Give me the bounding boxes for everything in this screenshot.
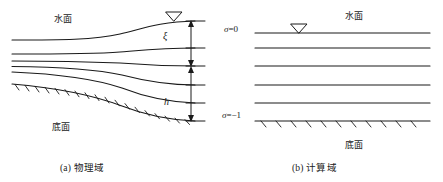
h-dimension-arrow [188,66,194,122]
computational-bed-hatching [261,121,416,127]
sigma-bottom-label: σ=−1 [222,110,241,120]
water-level-triangle-icon-a [166,12,182,21]
caption-panel-b: (b) 计算域 [292,160,337,174]
physical-water-surface-line [12,21,195,40]
water-surface-label-b: 水面 [345,9,363,22]
sigma-bottom-value: =−1 [226,110,241,120]
sigma-top-value: =0 [228,24,238,34]
physical-layer-line-2 [12,48,195,54]
bottom-label-a: 底面 [52,120,70,133]
caption-panel-a: (a) 物理域 [60,160,104,174]
h-symbol-label: h [164,96,169,107]
bottom-label-b: 底面 [345,138,363,151]
sigma-coordinate-figure: 水面 底面 ξ h σ=0 σ=−1 水面 底面 (a) 物理域 (b) 计算域 [0,0,443,182]
physical-domain-layers [12,21,195,103]
physical-layer-line-4 [12,67,195,86]
water-surface-label-a: 水面 [54,12,72,25]
figure-canvas [0,0,443,182]
xi-symbol-label: ξ [163,30,167,41]
sigma-top-label: σ=0 [224,24,238,34]
physical-right-edge-ticks [186,21,205,121]
computational-domain-layers [255,33,430,121]
xi-dimension-arrow [188,20,194,67]
physical-layer-line-3 [12,61,195,66]
water-level-triangle-icon-b [291,24,307,33]
